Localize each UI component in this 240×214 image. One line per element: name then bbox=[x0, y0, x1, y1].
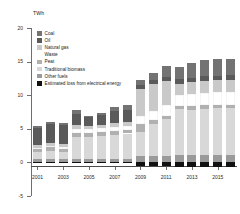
bar-segment bbox=[33, 152, 42, 159]
y-tick bbox=[27, 196, 31, 197]
bar-segment bbox=[226, 108, 235, 155]
chart-figure: TWh -505101520 2001200320052007200920112… bbox=[0, 0, 240, 214]
plot-area bbox=[31, 28, 237, 196]
bar-segment bbox=[187, 78, 196, 83]
bar-segment bbox=[110, 123, 119, 127]
bar-segment bbox=[213, 92, 222, 105]
bar-segment bbox=[72, 110, 81, 114]
bar-2006 bbox=[97, 28, 106, 196]
bar-segment bbox=[175, 155, 184, 162]
bar-2013 bbox=[187, 28, 196, 196]
bar-segment-loss bbox=[200, 162, 209, 167]
bar-2012 bbox=[175, 28, 184, 196]
bar-segment bbox=[200, 60, 209, 76]
bar-segment bbox=[72, 129, 81, 133]
bar-segment bbox=[84, 116, 93, 117]
bar-segment bbox=[162, 119, 171, 155]
bar-segment bbox=[72, 133, 81, 137]
y-tick-label: 10 bbox=[6, 93, 23, 98]
bar-segment-loss bbox=[110, 162, 119, 163]
bar-segment bbox=[175, 106, 184, 110]
bar-segment-loss bbox=[187, 162, 196, 167]
bar-segment bbox=[33, 145, 42, 147]
bar-segment bbox=[123, 110, 132, 122]
bar-segment bbox=[213, 105, 222, 109]
bar-segment bbox=[84, 129, 93, 133]
bar-segment-loss bbox=[123, 162, 132, 163]
bar-segment bbox=[149, 111, 158, 120]
bar-2011 bbox=[162, 28, 171, 196]
bar-segment-loss bbox=[213, 162, 222, 167]
bar-segment bbox=[136, 80, 145, 85]
bar-segment bbox=[226, 59, 235, 75]
bar-segment bbox=[33, 128, 42, 145]
bar-segment bbox=[33, 126, 42, 127]
bar-segment bbox=[187, 94, 196, 106]
bar-segment-loss bbox=[149, 162, 158, 166]
bar-segment bbox=[110, 131, 119, 135]
bar-segment bbox=[226, 155, 235, 162]
bar-segment bbox=[226, 92, 235, 105]
bar-segment bbox=[162, 81, 171, 105]
y-tick-label: 0 bbox=[6, 160, 23, 165]
bar-segment bbox=[46, 146, 55, 148]
bar-segment bbox=[149, 84, 158, 111]
bar-2001 bbox=[33, 28, 42, 196]
bar-segment-loss bbox=[136, 162, 145, 166]
bar-segment bbox=[110, 127, 119, 131]
bar-segment bbox=[187, 155, 196, 162]
bar-segment bbox=[136, 132, 145, 157]
bar-2007 bbox=[110, 28, 119, 196]
y-tick-label: 5 bbox=[6, 126, 23, 131]
bar-segment bbox=[72, 114, 81, 125]
bar-segment bbox=[213, 80, 222, 91]
bar-segment bbox=[59, 125, 68, 144]
bar-segment bbox=[187, 63, 196, 78]
bar-segment bbox=[149, 73, 158, 80]
bar-segment bbox=[162, 116, 171, 120]
bar-2016 bbox=[226, 28, 235, 196]
bar-segment-loss bbox=[59, 162, 68, 163]
bar-segment bbox=[33, 148, 42, 149]
bar-segment bbox=[175, 79, 184, 84]
bar-segment bbox=[46, 143, 55, 146]
bar-segment bbox=[175, 67, 184, 79]
bar-segment bbox=[123, 126, 132, 130]
bar-segment bbox=[136, 116, 145, 125]
bar-segment bbox=[213, 76, 222, 81]
bar-segment bbox=[162, 66, 171, 77]
bar-segment bbox=[84, 137, 93, 159]
bar-segment-loss bbox=[84, 162, 93, 163]
bar-segment bbox=[110, 135, 119, 159]
bar-segment bbox=[97, 132, 106, 136]
bar-segment bbox=[123, 122, 132, 126]
bar-segment bbox=[200, 105, 209, 109]
bar-segment-loss bbox=[33, 162, 42, 163]
bar-segment-loss bbox=[175, 162, 184, 167]
bar-segment bbox=[97, 136, 106, 159]
bar-segment bbox=[123, 130, 132, 134]
bar-segment bbox=[226, 75, 235, 80]
bar-segment bbox=[200, 81, 209, 92]
bar-segment bbox=[136, 85, 145, 89]
bar-2010 bbox=[149, 28, 158, 196]
bar-segment bbox=[33, 149, 42, 152]
bar-segment bbox=[187, 82, 196, 93]
y-tick-label: -5 bbox=[6, 194, 23, 199]
bar-segment-loss bbox=[226, 162, 235, 167]
y-axis-unit-label: TWh bbox=[33, 10, 44, 16]
bar-2009 bbox=[136, 28, 145, 196]
bar-segment bbox=[149, 80, 158, 84]
bar-segment bbox=[187, 110, 196, 156]
bar-segment bbox=[46, 122, 55, 123]
bar-segment bbox=[97, 125, 106, 129]
bar-segment bbox=[84, 126, 93, 129]
bar-segment bbox=[162, 105, 171, 115]
bar-segment bbox=[72, 137, 81, 159]
bar-segment-loss bbox=[162, 162, 171, 166]
bar-segment bbox=[136, 89, 145, 116]
bar-segment bbox=[226, 80, 235, 91]
bar-segment bbox=[97, 115, 106, 124]
bar-segment bbox=[200, 93, 209, 105]
bar-segment bbox=[162, 156, 171, 163]
